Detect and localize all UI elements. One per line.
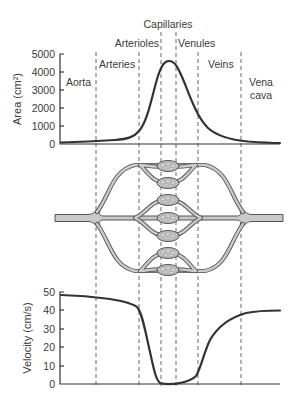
label-veins: Veins (208, 58, 234, 70)
label-arteries: Arteries (99, 58, 135, 70)
circulation-diagram: Capillaries Arterioles Venules Arteries … (0, 0, 300, 407)
area-axes (60, 54, 280, 144)
capillary-bed (157, 213, 179, 224)
velocity-tick-40: 40 (43, 304, 55, 316)
velocity-curve (61, 295, 280, 384)
area-tick-1000: 1000 (32, 120, 56, 132)
region-dividers (96, 32, 241, 386)
area-chart: 0 1000 2000 3000 4000 5000 Area (cm²) (11, 48, 280, 150)
velocity-axis-title: Velocity (cm/s) (21, 302, 33, 374)
area-axis-title: Area (cm²) (11, 73, 23, 125)
velocity-tick-0: 0 (49, 378, 55, 390)
label-capillaries: Capillaries (143, 18, 192, 30)
label-venules: Venules (178, 37, 215, 49)
capillary-bed (157, 178, 179, 189)
vessel-network (55, 161, 283, 276)
capillary-bed (157, 161, 179, 172)
label-aorta: Aorta (66, 76, 91, 88)
velocity-tick-10: 10 (43, 360, 55, 372)
label-vena-cava-2: cava (250, 89, 272, 101)
capillary-bed (157, 231, 179, 242)
region-labels: Capillaries Arterioles Venules Arteries … (66, 18, 273, 101)
area-tick-2000: 2000 (32, 102, 56, 114)
velocity-tick-20: 20 (43, 341, 55, 353)
capillary-bed (157, 248, 179, 259)
capillary-bed (157, 265, 179, 276)
label-vena-cava-1: Vena (249, 76, 273, 88)
area-tick-5000: 5000 (32, 48, 56, 60)
area-tick-4000: 4000 (32, 66, 56, 78)
area-tick-3000: 3000 (32, 84, 56, 96)
capillary-bed (157, 195, 179, 206)
velocity-tick-50: 50 (43, 286, 55, 298)
velocity-tick-30: 30 (43, 323, 55, 335)
area-curve (61, 61, 280, 143)
velocity-axes (60, 292, 280, 384)
label-arterioles: Arterioles (115, 37, 159, 49)
area-tick-0: 0 (49, 138, 55, 150)
